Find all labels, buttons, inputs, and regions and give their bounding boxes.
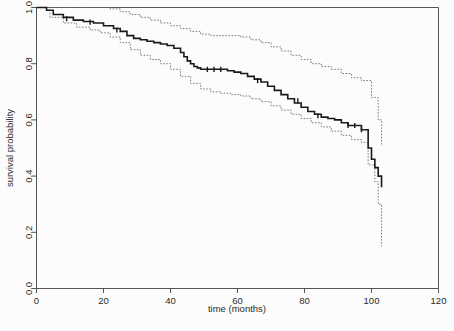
- x-tick-label-40: 40: [165, 295, 176, 306]
- y-axis-title: survival probability: [4, 109, 15, 187]
- x-tick-label-80: 80: [299, 295, 310, 306]
- y-tick-label-0-4: 0.4: [23, 169, 34, 182]
- x-axis-title: time (months): [208, 303, 266, 314]
- figure-background: [0, 0, 454, 331]
- x-tick-label-100: 100: [364, 295, 380, 306]
- x-tick-label-120: 120: [431, 295, 447, 306]
- y-tick-label-0-6: 0.6: [23, 113, 34, 126]
- x-tick-label-20: 20: [98, 295, 109, 306]
- y-tick-label-0: 0.0: [23, 282, 34, 295]
- x-tick-label-0: 0: [34, 295, 39, 306]
- y-tick-label-0-8: 0.8: [23, 57, 34, 70]
- y-tick-label-0-2: 0.2: [23, 226, 34, 239]
- survival-plot-figure: 020406080100120 0.00.20.40.60.81.0 time …: [0, 0, 454, 331]
- plot-canvas: 020406080100120 0.00.20.40.60.81.0 time …: [0, 0, 454, 331]
- y-tick-label-1: 1.0: [23, 1, 34, 14]
